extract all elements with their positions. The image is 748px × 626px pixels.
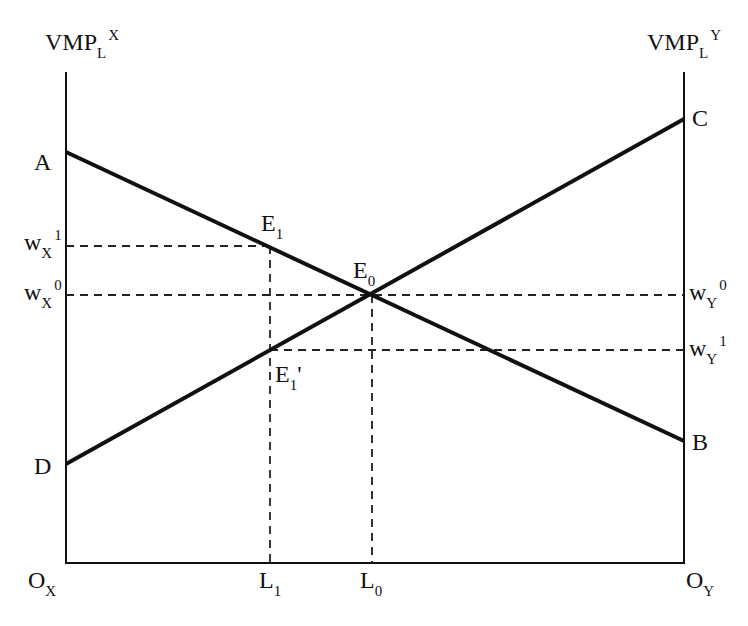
point-b-label: B xyxy=(692,430,708,454)
origin-x-label: OX xyxy=(28,568,56,592)
point-d-label: D xyxy=(34,454,51,478)
diagram-canvas xyxy=(0,0,748,626)
labor-l1-label: L1 xyxy=(259,568,281,592)
equilibrium-e1-prime-label: E1' xyxy=(275,362,302,386)
origin-y-label: OY xyxy=(686,568,714,592)
point-c-label: C xyxy=(692,106,708,130)
right-axis-title: VMPLY xyxy=(647,30,721,54)
vmp-y-curve-dc xyxy=(66,119,684,464)
wage-x0-label: wX0 xyxy=(24,280,62,304)
wage-y1-label: wY1 xyxy=(689,336,727,360)
wage-y0-label: wY0 xyxy=(689,280,727,304)
left-axis-title: VMPLX xyxy=(45,30,119,54)
vmp-x-curve-ab xyxy=(66,152,684,441)
labor-l0-label: L0 xyxy=(360,568,382,592)
point-a-label: A xyxy=(34,150,51,174)
equilibrium-e1-label: E1 xyxy=(261,211,283,235)
wage-x1-label: wX1 xyxy=(24,230,62,254)
equilibrium-e0-label: E0 xyxy=(353,258,375,282)
